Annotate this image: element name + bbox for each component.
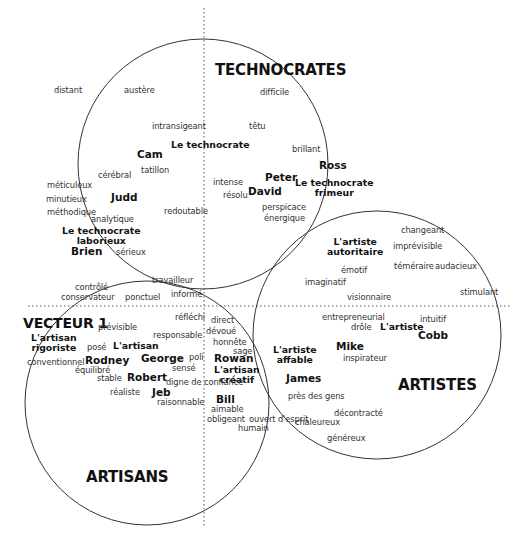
venn-diagram: TECHNOCRATES ARTISTES ARTISANS VECTEUR 1… — [0, 0, 517, 559]
word-tatillon: tatillon — [141, 166, 169, 174]
word-direct: direct — [211, 316, 234, 324]
profile-l-artisan: L'artisan — [113, 341, 159, 351]
word-decontracte: décontracté — [334, 409, 383, 417]
profile-le-technocrate: Le technocrate — [171, 140, 249, 150]
profile-artisan-rigoriste-line2: rigoriste — [31, 343, 77, 353]
word-raisonnable: raisonnable — [157, 398, 204, 406]
word-stimulant: stimulant — [460, 288, 498, 296]
word-previsible: prévisible — [98, 323, 137, 331]
word-analytique: analytique — [91, 215, 134, 223]
word-controle: contrôlé — [75, 283, 108, 291]
name-george: George — [141, 353, 184, 364]
word-perspicace: perspicace — [262, 203, 306, 211]
word-aimable: aimable — [211, 405, 244, 413]
axis-label-vecteur-1: VECTEUR 1 — [23, 316, 108, 330]
profile-technocrate-frimeur: Le technocrate frimeur — [295, 178, 373, 198]
diagram-lines — [0, 0, 517, 559]
word-intransigeant: intransigeant — [152, 122, 206, 130]
name-david: David — [248, 186, 282, 197]
word-intense: intense — [213, 178, 243, 186]
profile-artiste-affable: L'artiste affable — [273, 345, 317, 365]
word-pres-des-gens: près des gens — [288, 392, 345, 400]
word-entrepreneurial: entrepreneurial — [322, 313, 385, 321]
word-reflechi: réfléchi — [175, 313, 205, 321]
word-stable: stable — [97, 374, 122, 382]
profile-technocrate-frimeur-line2: frimeur — [295, 188, 373, 198]
word-austere: austère — [124, 86, 155, 94]
name-mike: Mike — [336, 341, 364, 352]
word-redoutable: redoutable — [164, 207, 208, 215]
word-tetu: têtu — [249, 122, 265, 130]
word-genereux: généreux — [327, 434, 365, 442]
name-rowan: Rowan — [214, 353, 254, 364]
word-devoue: dévoué — [206, 327, 236, 335]
word-pose: posé — [87, 343, 106, 351]
profile-artiste-affable-line2: affable — [273, 355, 317, 365]
name-brien: Brien — [71, 246, 102, 257]
word-methodique: méthodique — [47, 208, 96, 216]
word-emotif: émotif — [341, 266, 367, 274]
name-robert: Robert — [127, 372, 167, 383]
word-informe: informé — [171, 290, 202, 298]
word-poli: poli — [189, 353, 204, 361]
name-peter: Peter — [265, 172, 297, 183]
word-meticuleux: méticuleux — [47, 181, 92, 189]
word-temeraire: téméraire — [394, 262, 434, 270]
word-travailleur: travailleur — [152, 276, 193, 284]
word-drole: drôle — [351, 323, 371, 331]
name-judd: Judd — [111, 192, 137, 203]
word-responsable: responsable — [153, 331, 202, 339]
word-changeant: changeant — [401, 226, 444, 234]
word-imprevisible: imprévisible — [393, 242, 442, 250]
word-inspirateur: inspirateur — [343, 354, 387, 362]
name-ross: Ross — [319, 160, 347, 171]
word-audacieux: audacieux — [435, 262, 477, 270]
word-visionnaire: visionnaire — [347, 293, 391, 301]
profile-artiste-autoritaire-line2: autoritaire — [327, 247, 383, 257]
word-brillant: brillant — [292, 145, 320, 153]
word-distant: distant — [54, 86, 82, 94]
word-realiste: réaliste — [110, 388, 140, 396]
word-cerebral: cérébral — [98, 171, 131, 179]
profile-technocrate-laborieux: Le technocrate laborieux — [62, 226, 140, 246]
word-digne-de-confiance: digne de confiance — [166, 378, 243, 386]
word-sense: sensé — [172, 364, 196, 372]
group-title-artistes: ARTISTES — [398, 378, 477, 393]
word-difficile: difficile — [260, 88, 289, 96]
name-cobb: Cobb — [418, 330, 448, 341]
profile-l-artiste: L'artiste — [380, 322, 424, 332]
profile-artiste-autoritaire: L'artiste autoritaire — [327, 237, 383, 257]
word-humain: humain — [238, 424, 269, 432]
group-title-technocrates: TECHNOCRATES — [215, 63, 346, 78]
word-conservateur: conservateur — [61, 293, 115, 301]
group-title-artisans: ARTISANS — [86, 470, 168, 485]
name-bill: Bill — [216, 394, 235, 405]
word-minutieux: minutieux — [46, 195, 87, 203]
word-intuitif: intuitif — [420, 315, 446, 323]
name-james: James — [286, 373, 321, 384]
profile-artisan-rigoriste: L'artisan rigoriste — [31, 333, 77, 353]
word-energique: énergique — [264, 214, 305, 222]
name-rodney: Rodney — [85, 355, 129, 366]
word-ponctuel: ponctuel — [125, 293, 160, 301]
word-imaginatif: imaginatif — [305, 278, 346, 286]
word-resolu: résolu — [223, 191, 248, 199]
name-jeb: Jeb — [152, 387, 171, 398]
word-serieux: sérieux — [116, 248, 146, 256]
name-cam: Cam — [137, 149, 163, 160]
